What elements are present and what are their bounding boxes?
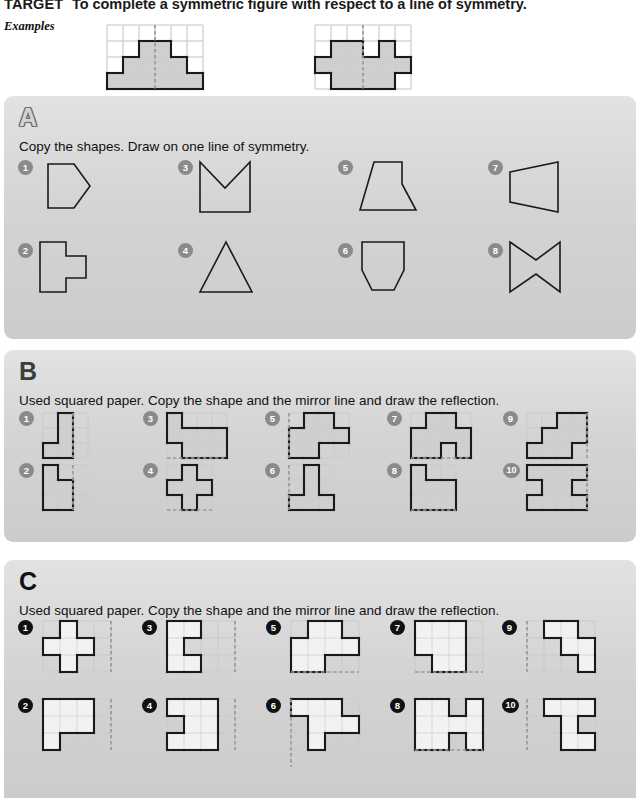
section-c-panel: C Used squared paper. Copy the shape and… — [4, 560, 636, 798]
page-header: TARGET To complete a symmetric figure wi… — [0, 0, 640, 16]
grid-figure-b8 — [408, 462, 459, 513]
grid-figure-b10 — [524, 462, 590, 513]
item-number-a7: 7 — [488, 160, 503, 175]
item-number-c3: 3 — [142, 620, 157, 635]
grid-figure-b2 — [40, 462, 91, 513]
item-number-b9: 9 — [503, 411, 518, 426]
shape-chevron-notch — [198, 160, 256, 216]
target-label: TARGET — [4, 0, 63, 12]
item-number-c4: 4 — [142, 698, 157, 713]
section-b-instruction: Used squared paper. Copy the shape and t… — [19, 393, 499, 408]
grid-figure-b1 — [40, 410, 91, 461]
item-number-c10: 10 — [502, 698, 519, 713]
item-number-b5: 5 — [265, 411, 280, 426]
item-number-a3: 3 — [178, 160, 193, 175]
grid-figure-c9 — [524, 618, 598, 675]
grid-figure-b4 — [164, 462, 215, 513]
section-a-instruction: Copy the shapes. Draw on one line of sym… — [19, 139, 309, 154]
grid-figure-b3 — [164, 410, 230, 461]
item-number-a1: 1 — [18, 160, 33, 175]
shape-bowtie — [508, 240, 566, 296]
shape-tub — [358, 240, 410, 294]
grid-figure-c8 — [412, 696, 486, 753]
grid-figure-c1 — [40, 618, 114, 675]
grid-figure-c5 — [288, 618, 362, 675]
target-statement: To complete a symmetric figure with resp… — [72, 0, 527, 12]
item-number-b6: 6 — [265, 463, 280, 478]
item-number-b1: 1 — [19, 411, 34, 426]
item-number-b7: 7 — [387, 411, 402, 426]
grid-figure-c6 — [288, 696, 362, 770]
section-a-letter: A — [19, 105, 37, 130]
item-number-c2: 2 — [18, 698, 33, 713]
item-number-b3: 3 — [143, 411, 158, 426]
grid-figure-c3 — [164, 618, 238, 675]
item-number-c6: 6 — [266, 698, 281, 713]
examples-label: Examples — [4, 19, 55, 34]
item-number-c9: 9 — [502, 620, 517, 635]
item-number-a4: 4 — [178, 243, 193, 258]
item-number-a8: 8 — [488, 243, 503, 258]
item-number-c5: 5 — [266, 620, 281, 635]
shape-flask — [358, 160, 420, 214]
item-number-c8: 8 — [390, 698, 405, 713]
section-c-letter: C — [19, 569, 37, 594]
grid-figure-c4 — [164, 696, 238, 753]
item-number-c7: 7 — [390, 620, 405, 635]
grid-figure-b7 — [408, 410, 474, 461]
section-b-panel: B Used squared paper. Copy the shape and… — [4, 350, 636, 542]
section-a-panel: A Copy the shapes. Draw on one line of s… — [4, 96, 636, 339]
grid-figure-c10 — [524, 696, 598, 753]
item-number-a2: 2 — [18, 243, 33, 258]
grid-figure-b5 — [286, 410, 352, 461]
grid-figure-b6 — [286, 462, 337, 513]
item-number-a5: 5 — [338, 160, 353, 175]
section-b-letter: B — [19, 359, 37, 384]
grid-figure-c7 — [412, 618, 486, 675]
grid-figure-c2 — [40, 696, 114, 753]
example-figure-2 — [312, 22, 414, 92]
item-number-b4: 4 — [143, 463, 158, 478]
item-number-b2: 2 — [19, 463, 34, 478]
item-number-b8: 8 — [387, 463, 402, 478]
shape-trapezium — [508, 160, 564, 216]
section-c-instruction: Used squared paper. Copy the shape and t… — [19, 603, 499, 618]
item-number-c1: 1 — [18, 620, 33, 635]
shape-cross-tab — [38, 240, 94, 296]
example-figure-1 — [104, 22, 206, 92]
shape-triangle — [198, 240, 256, 296]
shape-pentagon-arrow — [38, 160, 100, 214]
item-number-b10: 10 — [503, 463, 520, 478]
item-number-a6: 6 — [338, 243, 353, 258]
grid-figure-b9 — [524, 410, 590, 461]
